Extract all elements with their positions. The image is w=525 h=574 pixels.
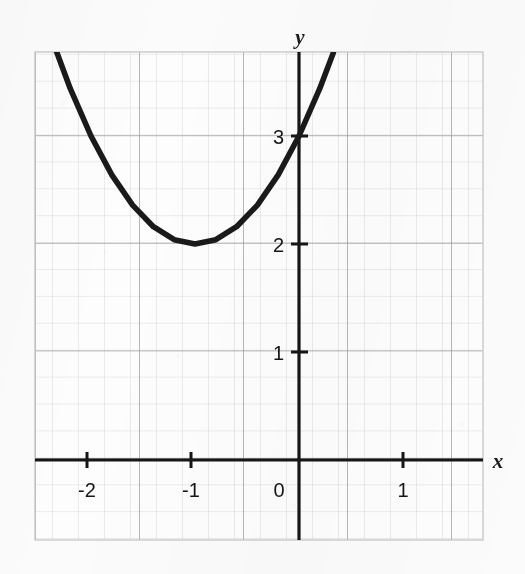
x-axis-label: x [492, 449, 504, 473]
y-tick-label-1: 1 [273, 342, 284, 364]
x-tick-label-0: 0 [273, 479, 284, 501]
x-tick-label--1: -1 [182, 479, 200, 501]
graph-page: -2 -1 0 1 1 2 3 y x [0, 0, 525, 574]
major-gridlines [35, 52, 483, 540]
x-tick-label-1: 1 [397, 479, 408, 501]
y-tick-label-2: 2 [273, 234, 284, 256]
x-tick-label--2: -2 [78, 479, 96, 501]
coordinate-plane-graph: -2 -1 0 1 1 2 3 y x [0, 0, 525, 574]
grid-area [35, 52, 483, 540]
y-tick-label-3: 3 [273, 126, 284, 148]
y-axis-label: y [292, 25, 305, 49]
